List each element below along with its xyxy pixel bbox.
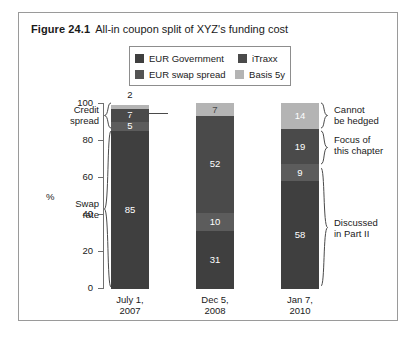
x-label-line2: 2010 bbox=[260, 305, 340, 316]
bar-segment-value: 9 bbox=[297, 168, 302, 178]
x-label-line2: 2007 bbox=[90, 305, 170, 316]
bar-segment-basis-5y[interactable]: 14 bbox=[281, 103, 319, 129]
x-label-line2: 2008 bbox=[175, 305, 255, 316]
x-tick-label-jan-2010: Jan 7, 2010 bbox=[260, 294, 340, 316]
value-leader-line bbox=[128, 113, 168, 114]
annotation-line2: this chapter bbox=[334, 145, 404, 156]
y-tick-label: 80 bbox=[63, 135, 93, 145]
bar-segment-eur-swap-spread[interactable]: 9 bbox=[281, 164, 319, 181]
annotation-line2: in Part II bbox=[334, 228, 404, 239]
annotation-line2: spread bbox=[35, 115, 99, 126]
bar-segment-eur-government[interactable]: 85 bbox=[111, 131, 149, 289]
x-label-line1: Dec 5, bbox=[175, 294, 255, 305]
bar-segment-eur-swap-spread[interactable]: 5 bbox=[111, 122, 149, 131]
x-label-line1: July 1, bbox=[90, 294, 170, 305]
discussed-in-part-ii-brace-icon bbox=[320, 167, 331, 289]
annotation-line1: Focus of bbox=[334, 134, 404, 145]
annotation-line1: Swap bbox=[35, 198, 99, 209]
y-tick-label: 20 bbox=[63, 246, 93, 256]
bar-segment-eur-government[interactable]: 31 bbox=[196, 231, 234, 289]
y-tick-label: 60 bbox=[63, 172, 93, 182]
bar-segment-value: 2 bbox=[127, 90, 132, 100]
bar-segment-value: 5 bbox=[127, 121, 132, 131]
bar-segment-value: 7 bbox=[127, 110, 132, 120]
annotation-line1: Cannot bbox=[334, 104, 404, 115]
figure-frame: Figure 24.1All-in coupon split of XYZ's … bbox=[18, 12, 398, 321]
annotation-cannot-be-hedged: Cannot be hedged bbox=[334, 104, 404, 126]
stacked-bar-dec-2008[interactable]: 7 52 10 31 bbox=[196, 103, 234, 289]
stacked-bar-july-2007[interactable]: 2 7 5 85 bbox=[111, 105, 149, 289]
bar-segment-value: 19 bbox=[295, 142, 306, 152]
x-tick-label-dec-2008: Dec 5, 2008 bbox=[175, 294, 255, 316]
credit-spread-brace-icon bbox=[101, 102, 112, 129]
plot-area: % 100 80 60 40 20 0 2 7 5 85 bbox=[19, 13, 399, 322]
y-tick-label: 0 bbox=[63, 283, 93, 293]
bar-segment-itraxx[interactable]: 52 bbox=[196, 116, 234, 213]
annotation-line1: Discussed bbox=[334, 217, 404, 228]
swap-rate-brace-icon bbox=[101, 130, 112, 289]
bar-segment-value: 31 bbox=[210, 255, 221, 265]
bar-segment-value: 85 bbox=[125, 205, 136, 215]
bar-segment-value: 52 bbox=[210, 159, 221, 169]
x-label-line1: Jan 7, bbox=[260, 294, 340, 305]
annotation-line2: be hedged bbox=[334, 115, 404, 126]
annotation-discussed-in-part-ii: Discussed in Part II bbox=[334, 217, 404, 239]
bar-segment-value: 10 bbox=[210, 217, 221, 227]
annotation-line2: rate bbox=[35, 209, 99, 220]
bar-segment-eur-swap-spread[interactable]: 10 bbox=[196, 213, 234, 232]
bar-segment-basis-5y[interactable]: 7 bbox=[196, 103, 234, 116]
cannot-be-hedged-brace-icon bbox=[320, 102, 331, 129]
bar-segment-value: 14 bbox=[295, 111, 306, 121]
bar-segment-value: 7 bbox=[212, 105, 217, 115]
bar-segment-itraxx[interactable]: 19 bbox=[281, 129, 319, 164]
stacked-bar-jan-2010[interactable]: 14 19 9 58 bbox=[281, 103, 319, 289]
bar-segment-eur-government[interactable]: 58 bbox=[281, 181, 319, 289]
focus-of-this-chapter-brace-icon bbox=[320, 130, 331, 166]
x-tick-label-july-2007: July 1, 2007 bbox=[90, 294, 170, 316]
bar-segment-value: 58 bbox=[295, 230, 306, 240]
annotation-swap-rate: Swap rate bbox=[35, 198, 99, 220]
annotation-line1: Credit bbox=[35, 104, 99, 115]
annotation-credit-spread: Credit spread bbox=[35, 104, 99, 126]
annotation-focus-of-this-chapter: Focus of this chapter bbox=[334, 134, 404, 156]
